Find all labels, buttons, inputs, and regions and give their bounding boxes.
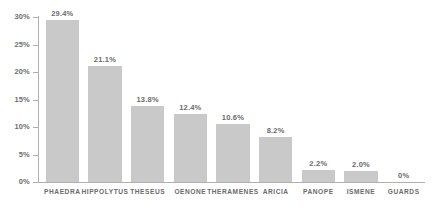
- bar-item[interactable]: 10.6%: [216, 17, 249, 182]
- bar-item[interactable]: 2.0%: [344, 17, 377, 182]
- y-axis-tick: [33, 17, 38, 18]
- bar-item[interactable]: 0%: [387, 17, 420, 182]
- bar[interactable]: [344, 171, 377, 182]
- bar-value-label: 2.2%: [302, 159, 335, 168]
- y-axis-tick: [33, 155, 38, 156]
- bar[interactable]: [259, 137, 292, 182]
- y-axis-line: [38, 16, 39, 183]
- bar-item[interactable]: 13.8%: [131, 17, 164, 182]
- y-axis-tick-label: 25%: [4, 40, 30, 49]
- y-axis-tick-label: 10%: [4, 122, 30, 131]
- y-axis-tick-label: 20%: [4, 67, 30, 76]
- y-axis-tick: [33, 182, 38, 183]
- y-axis-tick-label: 15%: [4, 95, 30, 104]
- bar[interactable]: [216, 124, 249, 182]
- bar-chart: 0%5%10%15%20%25%30% 29.4%21.1%13.8%12.4%…: [0, 0, 439, 211]
- y-axis-tick-label: 30%: [4, 12, 30, 21]
- bar[interactable]: [46, 20, 79, 182]
- y-axis-tick-label: 0%: [4, 177, 30, 186]
- bar-item[interactable]: 2.2%: [302, 17, 335, 182]
- bar[interactable]: [174, 114, 207, 182]
- y-axis-tick-label: 5%: [4, 150, 30, 159]
- bar-item[interactable]: 12.4%: [174, 17, 207, 182]
- bar-value-label: 2.0%: [344, 160, 377, 169]
- y-axis-tick: [33, 72, 38, 73]
- bar-value-label: 10.6%: [216, 113, 249, 122]
- bar-item[interactable]: 8.2%: [259, 17, 292, 182]
- bar[interactable]: [88, 66, 121, 182]
- x-axis-line: [38, 182, 425, 183]
- bar-value-label: 13.8%: [131, 95, 164, 104]
- bar-item[interactable]: 29.4%: [46, 17, 79, 182]
- bar-value-label: 12.4%: [174, 103, 207, 112]
- bar-series: 29.4%21.1%13.8%12.4%10.6%8.2%2.2%2.0%0%: [41, 17, 425, 182]
- bar[interactable]: [302, 170, 335, 182]
- bar-value-label: 0%: [387, 171, 420, 180]
- bar-value-label: 8.2%: [259, 126, 292, 135]
- bar[interactable]: [131, 106, 164, 182]
- y-axis-tick: [33, 127, 38, 128]
- y-axis-tick: [33, 100, 38, 101]
- y-axis-tick: [33, 45, 38, 46]
- bar-item[interactable]: 21.1%: [88, 17, 121, 182]
- bar-value-label: 21.1%: [88, 55, 121, 64]
- bar-value-label: 29.4%: [46, 9, 79, 18]
- x-axis-category-label: GUARDS: [361, 188, 439, 195]
